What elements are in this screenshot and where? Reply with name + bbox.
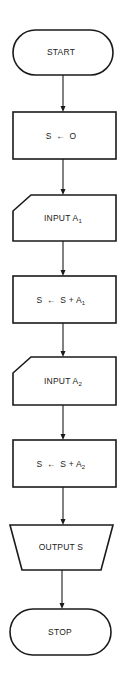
init-rhs: O — [69, 131, 76, 141]
input2-text: INPUT A — [44, 376, 78, 386]
assign-arrow-icon: ← — [47, 295, 56, 305]
add1-lhs: S — [37, 295, 43, 305]
add2-lhs: S — [37, 459, 43, 469]
input1-label: INPUT A1 — [0, 213, 122, 223]
init-label: S ← O — [0, 131, 122, 141]
add2-subscript: 2 — [82, 464, 86, 470]
add1-rhs: S + A — [60, 295, 82, 305]
assign-arrow-icon: ← — [47, 459, 56, 469]
add1-subscript: 1 — [82, 300, 86, 306]
arrowhead-icon — [61, 189, 66, 195]
arrowhead-icon — [61, 351, 66, 357]
input2-label: INPUT A2 — [0, 376, 122, 386]
arrowhead-icon — [61, 434, 66, 440]
output-label: OUTPUT S — [0, 542, 122, 552]
arrowhead-icon — [60, 603, 65, 609]
start-label: START — [0, 47, 122, 57]
flowchart-canvas — [0, 0, 122, 679]
arrowhead-icon — [61, 270, 66, 276]
input2-subscript: 2 — [78, 381, 82, 387]
init-lhs: S — [46, 131, 52, 141]
arrowhead-icon — [61, 106, 66, 112]
input1-subscript: 1 — [78, 218, 82, 224]
input1-text: INPUT A — [44, 213, 78, 223]
assign-arrow-icon: ← — [56, 131, 65, 141]
add1-label: S ← S + A1 — [0, 295, 122, 305]
add2-label: S ← S + A2 — [0, 459, 122, 469]
stop-label: STOP — [0, 627, 121, 637]
add2-rhs: S + A — [60, 459, 82, 469]
arrowhead-icon — [61, 519, 66, 525]
